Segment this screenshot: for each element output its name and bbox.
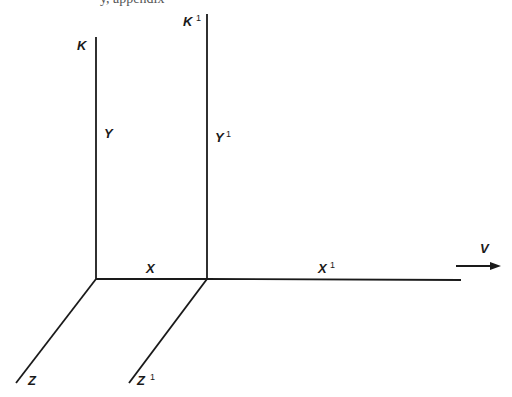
y-axis-label: Y <box>104 126 114 141</box>
frame-k1-label: K <box>183 14 194 29</box>
z1-axis-superscript: 1 <box>150 372 155 382</box>
z1-axis-label: Z <box>136 373 146 388</box>
frame-k1-superscript: 1 <box>196 13 201 23</box>
frame-k: K Y X Z <box>16 37 207 388</box>
z-axis-k1 <box>129 279 207 383</box>
y1-axis-superscript: 1 <box>226 129 231 139</box>
reference-frames-diagram: y, appendix K Y X Z K 1 Y 1 X 1 Z 1 V <box>0 0 512 397</box>
x-axis-k1 <box>207 279 461 280</box>
z-axis-k <box>16 279 96 383</box>
x1-axis-superscript: 1 <box>330 260 335 270</box>
frame-k1: K 1 Y 1 X 1 Z 1 <box>129 13 461 388</box>
frame-k-label: K <box>77 38 88 53</box>
velocity-label: V <box>480 241 490 256</box>
x1-axis-label: X <box>317 261 328 276</box>
arrow-right-icon <box>490 262 501 270</box>
z-axis-label: Z <box>27 373 37 388</box>
y1-axis-label: Y <box>215 130 225 145</box>
x-axis-label: X <box>145 261 156 276</box>
cut-off-page-text: y, appendix <box>100 0 164 6</box>
velocity-indicator: V <box>456 241 501 270</box>
